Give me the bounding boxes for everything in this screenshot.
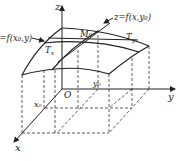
y0-label: y₀ xyxy=(92,79,102,88)
drop-lines xyxy=(22,30,149,133)
right-curve-label: z=f(x,y₀) xyxy=(113,12,151,22)
base-projection xyxy=(22,89,149,133)
x0-label: x₀ xyxy=(34,100,43,109)
tx-label: Tx xyxy=(45,45,55,56)
left-curve-label: z=f(x₀,y) xyxy=(0,33,32,43)
partial-derivative-diagram: z y x O z=f(x₀,y) z=f(x,y₀) M₀ Tx Ty x₀ … xyxy=(0,0,179,161)
curve-x0 xyxy=(44,42,139,52)
origin-label: O xyxy=(64,90,72,100)
z-axis-label: z xyxy=(54,1,61,12)
axes xyxy=(14,6,175,142)
x-axis-label: x xyxy=(15,142,21,153)
y-axis-label: y xyxy=(167,91,174,102)
point-m0-label: M₀ xyxy=(79,29,93,39)
ty-label: Ty xyxy=(126,32,136,44)
